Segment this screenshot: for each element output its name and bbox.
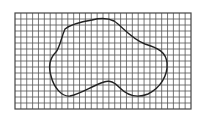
grid-diagram [0,0,201,119]
background [0,0,201,119]
